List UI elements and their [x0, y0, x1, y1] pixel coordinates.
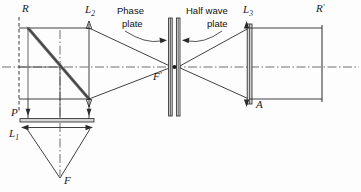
label-L3: L3 [242, 3, 253, 18]
label-A: A [255, 98, 263, 110]
ray-diverge-upper [178, 28, 249, 67]
annotation-phase-plate-line2: plate [122, 18, 143, 29]
focal-point-marker [173, 65, 177, 69]
beam-splitter-edge-bottom [29, 29, 90, 100]
label-F: F [63, 174, 71, 186]
polarizer-P-body [20, 119, 94, 122]
half-wave-plate-leader-arrowhead [182, 38, 190, 44]
label-P: P [10, 106, 18, 118]
label-L1: L1 [8, 127, 19, 142]
ray-diverge-lower [178, 67, 249, 99]
phase-plate-leader [125, 31, 161, 42]
label-L2: L2 [84, 3, 95, 18]
half-wave-plate-leader [188, 31, 222, 42]
ray-down-left-arrowhead [26, 109, 31, 116]
label-F-prime: F' [152, 70, 162, 82]
phase-plate-leader-arrowhead [159, 38, 167, 44]
ray-down-right-arrowhead [87, 109, 92, 116]
ray-focus-right [60, 129, 90, 178]
optical-diagram: R R' L2 L3 P L1 F F' A Phase plate Half … [0, 0, 361, 192]
ray-converge-upper [89, 28, 172, 67]
annotation-phase-plate-line1: Phase [117, 5, 144, 16]
annotation-half-wave-plate-line2: plate [207, 18, 228, 29]
optics-canvas: R R' L2 L3 P L1 F F' A Phase plate Half … [0, 0, 361, 192]
label-R-prime: R' [315, 2, 325, 14]
ray-focus-left [27, 129, 60, 178]
annotation-half-wave-plate-line1: Half wave [186, 5, 228, 16]
label-R: R [21, 2, 29, 14]
